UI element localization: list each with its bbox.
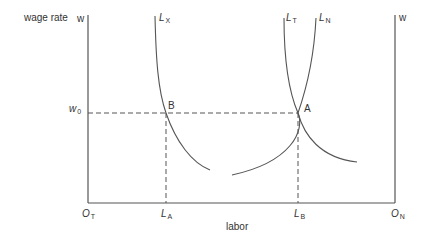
left-axis-symbol: w	[77, 14, 84, 24]
curve-ln	[298, 18, 357, 162]
curve-lt	[232, 18, 300, 175]
point-a-label: A	[304, 104, 311, 114]
x-axis-label: labor	[226, 222, 248, 232]
la-label: LA	[161, 209, 172, 219]
curve-ln-label: LN	[319, 13, 331, 23]
curve-lx	[155, 16, 210, 170]
labor-allocation-diagram	[0, 0, 428, 238]
curve-lt-label: LT	[286, 13, 297, 23]
lb-label: LB	[294, 209, 305, 219]
curve-lx-label: LX	[159, 13, 170, 23]
origin-ot-label: OT	[82, 209, 95, 219]
origin-on-label: ON	[391, 209, 405, 219]
point-b-label: B	[168, 101, 175, 111]
wage-w0-label: w0	[69, 104, 81, 114]
y-axis-label: wage rate	[24, 13, 68, 23]
right-axis-symbol: w	[399, 13, 406, 23]
